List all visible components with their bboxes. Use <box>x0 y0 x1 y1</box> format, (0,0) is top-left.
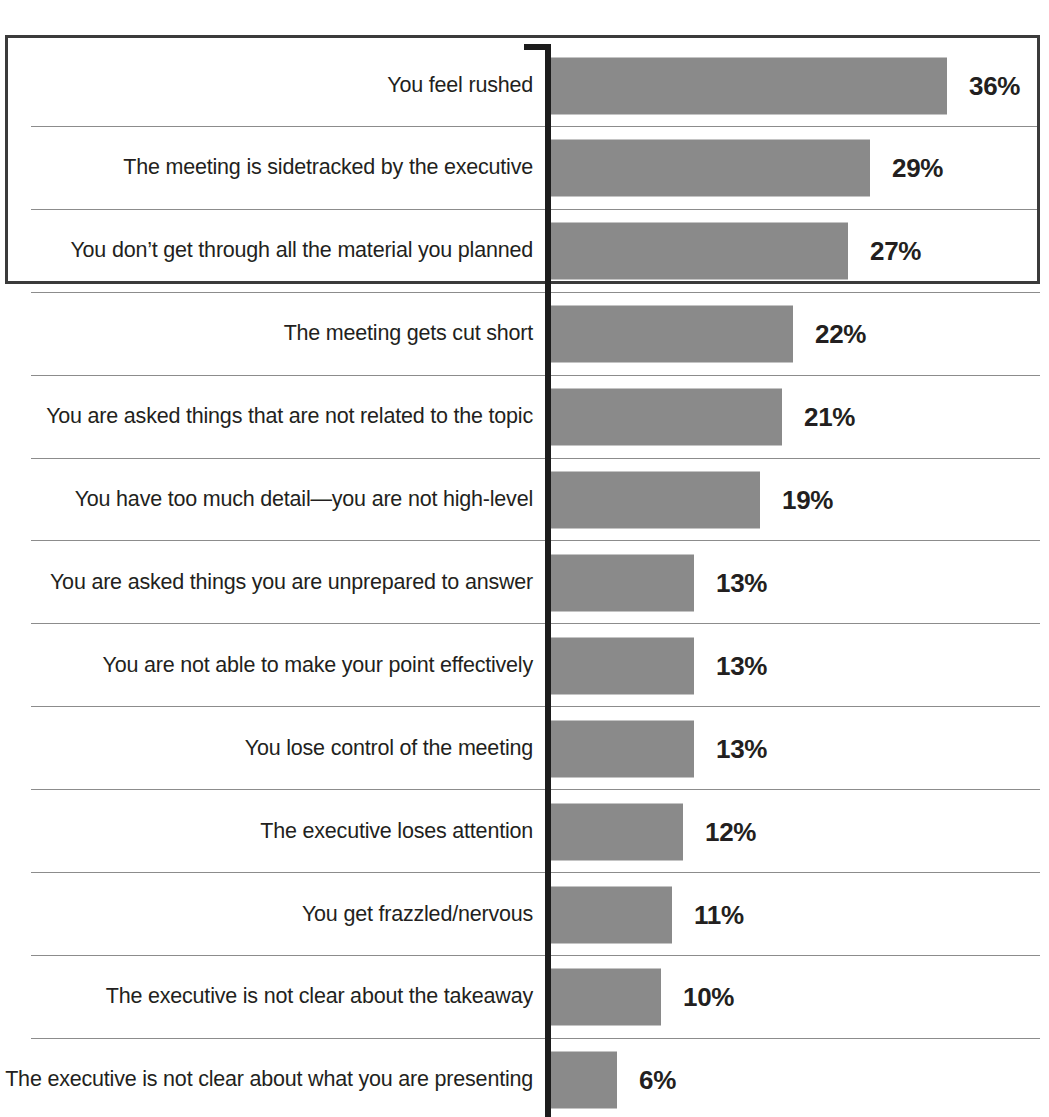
bar-value-label: 27% <box>870 238 921 264</box>
category-label: You have too much detail—you are not hig… <box>75 489 533 511</box>
bar-row: The meeting is sidetracked by the execut… <box>0 127 1049 210</box>
bar-value-label: 13% <box>716 736 767 762</box>
category-label: You don’t get through all the material y… <box>70 241 533 263</box>
bar-row: The executive loses attention12% <box>0 790 1049 873</box>
category-axis-line <box>545 44 551 1117</box>
bar-value-label: 36% <box>969 73 1020 99</box>
category-label: You are not able to make your point effe… <box>103 655 533 677</box>
bar-row: You don’t get through all the material y… <box>0 210 1049 293</box>
bar <box>551 140 870 197</box>
bar-row: The executive is not clear about the tak… <box>0 956 1049 1039</box>
bar-value-label: 21% <box>804 404 855 430</box>
bar <box>551 472 760 529</box>
bar-value-label: 13% <box>716 570 767 596</box>
category-label: You lose control of the meeting <box>245 738 533 760</box>
bar <box>551 886 672 943</box>
category-label: You feel rushed <box>387 75 533 97</box>
bar <box>551 637 694 694</box>
bar-row: You are not able to make your point effe… <box>0 624 1049 707</box>
category-label: The executive loses attention <box>260 821 533 843</box>
bar-value-label: 11% <box>694 902 744 928</box>
category-label: The executive is not clear about what yo… <box>5 1070 533 1092</box>
bar-row: You have too much detail—you are not hig… <box>0 459 1049 542</box>
bar <box>551 306 793 363</box>
bar <box>551 57 947 114</box>
category-label: You are asked things that are not relate… <box>46 406 533 428</box>
bar-row: You get frazzled/nervous11% <box>0 873 1049 956</box>
bar-chart: You feel rushed36%The meeting is sidetra… <box>0 0 1049 1117</box>
bar <box>551 803 683 860</box>
bar <box>551 389 782 446</box>
bar <box>551 223 848 280</box>
bar-value-label: 12% <box>705 819 756 845</box>
category-label: The meeting gets cut short <box>284 323 533 345</box>
category-label: The executive is not clear about the tak… <box>106 987 533 1009</box>
bar-row: You feel rushed36% <box>0 44 1049 127</box>
bar-row: You are asked things that are not relate… <box>0 376 1049 459</box>
bar <box>551 554 694 611</box>
category-label: You get frazzled/nervous <box>302 904 533 926</box>
bar <box>551 1052 617 1109</box>
category-label: You are asked things you are unprepared … <box>50 572 533 594</box>
bar-row: You lose control of the meeting13% <box>0 707 1049 790</box>
category-label: The meeting is sidetracked by the execut… <box>123 158 533 180</box>
bar-value-label: 6% <box>639 1067 676 1093</box>
bar-value-label: 19% <box>782 487 833 513</box>
bar <box>551 969 661 1026</box>
bar-value-label: 29% <box>892 155 943 181</box>
bar-row: The executive is not clear about what yo… <box>0 1039 1049 1117</box>
bar-row: You are asked things you are unprepared … <box>0 541 1049 624</box>
bar-value-label: 13% <box>716 653 767 679</box>
bar <box>551 720 694 777</box>
bar-row: The meeting gets cut short22% <box>0 293 1049 376</box>
bar-value-label: 10% <box>683 984 734 1010</box>
bar-value-label: 22% <box>815 321 866 347</box>
